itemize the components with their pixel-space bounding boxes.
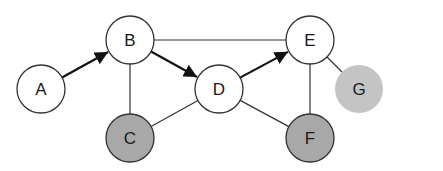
graph-diagram: ABCDEFG [0, 0, 443, 171]
node-label: A [35, 80, 47, 99]
node-f: F [286, 114, 334, 162]
node-label: E [304, 31, 315, 50]
node-label: B [124, 31, 135, 50]
node-a: A [17, 65, 65, 113]
edge-a-b [62, 52, 108, 77]
node-e: E [286, 16, 334, 64]
edge-c-d [151, 101, 198, 127]
edge-b-d [151, 52, 197, 77]
node-label: D [213, 80, 225, 99]
node-b: B [106, 16, 154, 64]
edge-e-g [327, 57, 342, 72]
node-label: G [352, 80, 365, 99]
edge-d-f [240, 100, 289, 126]
node-label: C [124, 129, 136, 148]
node-g: G [335, 65, 383, 113]
node-c: C [106, 114, 154, 162]
nodes: ABCDEFG [17, 16, 383, 162]
node-d: D [195, 65, 243, 113]
node-label: F [305, 129, 315, 148]
edge-d-e [240, 52, 288, 78]
